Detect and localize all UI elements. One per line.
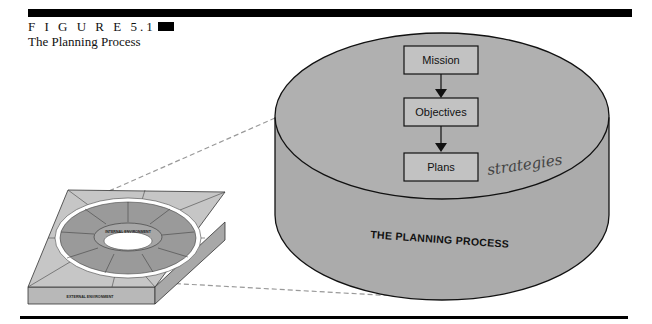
bottom-rule	[20, 316, 628, 319]
planning-cylinder: Mission Objectives Plans strategies THE …	[275, 33, 609, 300]
internal-environment-label: INTERNAL ENVIRONMENT	[105, 230, 151, 234]
mission-label: Mission	[422, 54, 459, 66]
center-hole	[104, 232, 152, 250]
plans-label: Plans	[427, 161, 455, 173]
external-environment-label: EXTERNAL ENVIRONMENT	[67, 295, 115, 299]
planning-process-diagram: Mission Objectives Plans strategies THE …	[0, 0, 652, 324]
objectives-label: Objectives	[415, 106, 467, 118]
environment-block: INTERNAL ENVIRONMENT EXTERNAL ENVIRONMEN…	[28, 190, 225, 304]
